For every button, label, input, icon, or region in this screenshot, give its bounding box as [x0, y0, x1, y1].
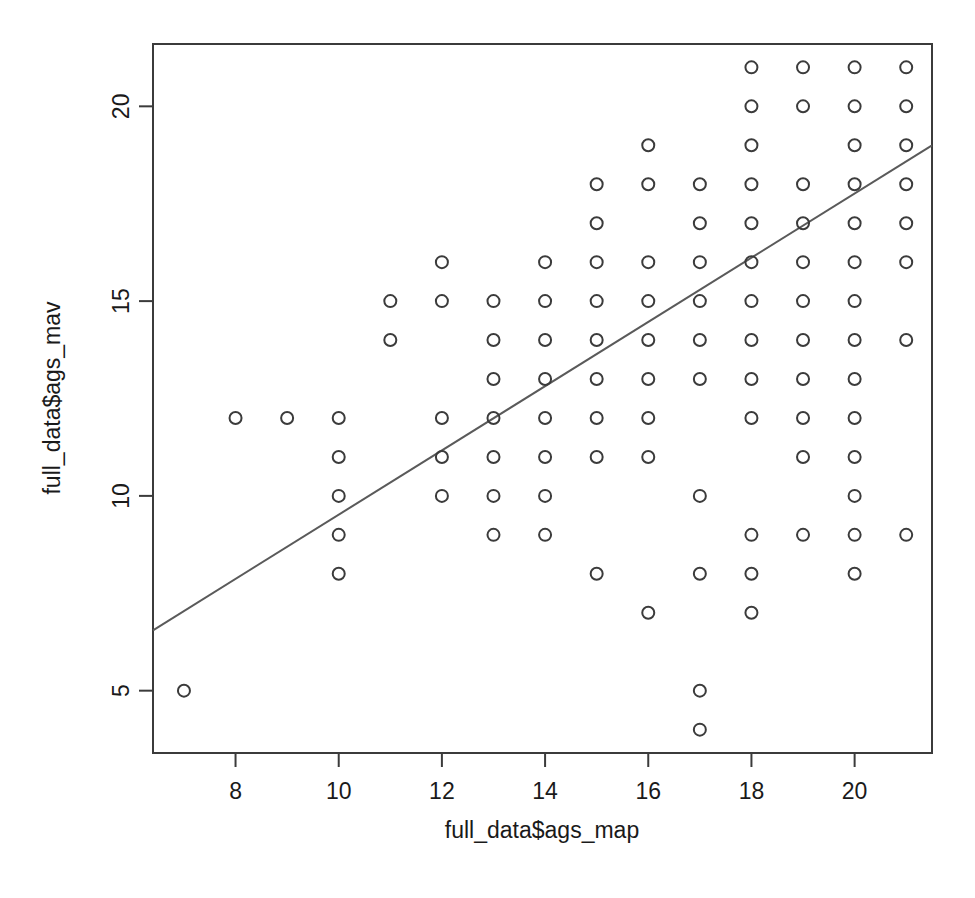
scatter-plot-figure: 8101214161820 5101520 full_data$ags_map … — [0, 0, 975, 898]
scatter-plot-page: 8101214161820 5101520 full_data$ags_map … — [0, 0, 975, 898]
x-axis-tick-label: 16 — [635, 778, 661, 804]
y-axis-tick-label: 15 — [108, 288, 134, 314]
x-axis-tick-label: 18 — [739, 778, 765, 804]
y-axis-tick-label: 5 — [108, 684, 134, 697]
x-axis-tick-label: 8 — [229, 778, 242, 804]
x-axis-tick-label: 14 — [532, 778, 558, 804]
x-axis-tick-label: 10 — [326, 778, 352, 804]
y-axis-tick-label: 10 — [108, 483, 134, 509]
x-axis-tick-label: 20 — [842, 778, 868, 804]
figure-background — [0, 0, 975, 898]
x-axis-tick-label: 12 — [429, 778, 455, 804]
y-axis-title: full_data$ags_mav — [39, 301, 65, 495]
x-axis-title: full_data$ags_map — [445, 817, 639, 843]
y-axis-tick-label: 20 — [108, 94, 134, 120]
